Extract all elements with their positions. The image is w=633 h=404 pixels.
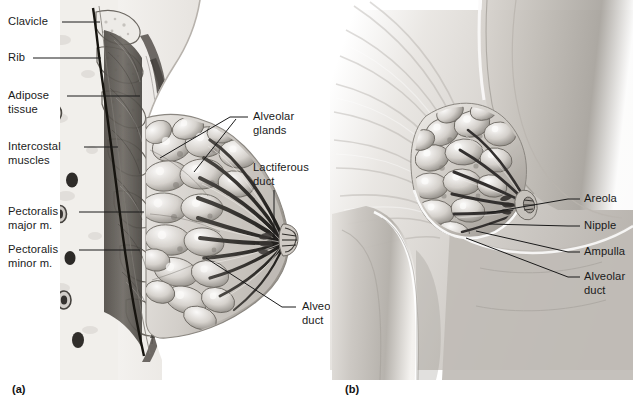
label-alveolar-duct-a-line2: duct [302,314,324,326]
panel-a-artwork [0,0,340,380]
label-lactiferous-duct: Lactiferousduct [253,161,309,188]
breast-section [138,110,298,338]
label-pectoralis-minor: Pectoralisminor m. [8,243,58,270]
label-pect-major-line1: Pectoralis [8,205,58,217]
label-pect-minor-line2: minor m. [8,257,52,269]
label-intercostal-line1: Intercostal [8,140,61,152]
label-alveolar-glands-line2: glands [253,124,287,136]
label-adipose-tissue-line1: Adipose [8,89,49,101]
panel-a-sagittal-section: Clavicle Rib Adiposetissue Intercostalmu… [0,0,340,380]
panel-letter-a: (a) [12,383,25,395]
label-intercostal-muscles: Intercostalmuscles [8,140,61,167]
label-ampulla: Ampulla [584,245,625,259]
label-adipose-tissue-line2: tissue [8,103,38,115]
label-lactiferous-duct-line2: duct [253,175,275,187]
label-clavicle: Clavicle [8,15,48,29]
label-lactiferous-duct-line1: Lactiferous [253,161,309,173]
label-alveolar-duct-b-line1: Alveolar [584,270,625,282]
label-intercostal-line2: muscles [8,154,50,166]
label-pectoralis-major: Pectoralismajor m. [8,205,58,232]
label-alveolar-duct-b-line2: duct [584,284,606,296]
label-alveolar-glands-line1: Alveolar [253,110,294,122]
figure-breast-anatomy: Clavicle Rib Adiposetissue Intercostalmu… [0,0,633,404]
label-nipple: Nipple [584,219,616,233]
label-pect-major-line2: major m. [8,219,52,231]
label-areola: Areola [584,192,617,206]
label-pect-minor-line1: Pectoralis [8,243,58,255]
panel-letter-b: (b) [345,383,359,395]
label-rib: Rib [8,51,25,65]
label-adipose-tissue: Adiposetissue [8,89,49,116]
label-alveolar-glands: Alveolarglands [253,110,294,137]
label-alveolar-duct-b: Alveolarduct [584,270,625,297]
panel-b-artwork [330,0,633,380]
nipple-areola-a [279,224,298,256]
panel-b-lateral-view: Areola Nipple Ampulla Alveolarduct [330,0,633,380]
